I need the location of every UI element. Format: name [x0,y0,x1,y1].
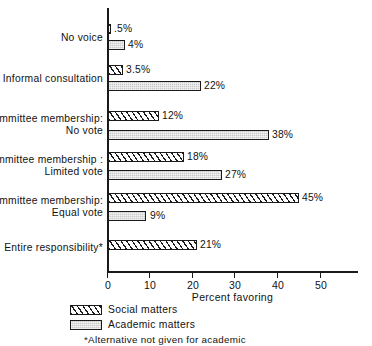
x-tick-1 [149,272,150,278]
x-tick-label-0: 0 [105,279,111,291]
bar-social-committee-limited-vote [108,152,184,162]
x-tick-label-1: 10 [144,279,156,291]
x-tick-3 [234,272,235,278]
bar-value-academic-no-voice: 4% [128,39,143,50]
bar-chart: 0 10 20 30 40 50 Percent favoring No voi… [0,0,372,346]
legend-label-academic-matters: Academic matters [108,319,195,330]
bar-social-informal-consultation [108,65,123,75]
bar-value-social-committee-no-vote: 12% [162,110,183,121]
bar-value-social-entire-responsibility: 21% [200,239,221,250]
x-tick-0 [107,272,108,278]
bar-value-academic-informal-consultation: 22% [204,80,225,91]
bar-academic-committee-limited-vote [108,170,222,180]
x-tick-label-5: 50 [315,279,327,291]
bar-social-committee-no-vote [108,111,159,121]
bar-academic-no-voice [108,40,125,50]
bar-value-social-no-voice: .5% [114,23,132,34]
legend-label-social-matters: Social matters [108,304,177,315]
category-label-entire-responsibility: Entire responsibility* [4,242,107,254]
bar-value-academic-committee-limited-vote: 27% [225,169,246,180]
bar-value-social-committee-limited-vote: 18% [187,151,208,162]
x-tick-label-2: 20 [187,279,199,291]
chart-footnote: *Alternative not given for academic [84,334,246,345]
bar-academic-committee-no-vote [108,130,269,140]
category-label-no-voice: No voice [61,32,107,44]
bar-value-social-committee-equal-vote: 45% [302,192,323,203]
bar-value-academic-committee-equal-vote: 9% [150,210,165,221]
legend-swatch-academic-matters [70,320,102,330]
bar-academic-informal-consultation [108,81,201,91]
bar-social-committee-equal-vote [108,193,299,203]
bar-social-entire-responsibility [108,240,197,250]
x-tick-4 [277,272,278,278]
x-axis-title: Percent favoring [107,291,358,303]
category-label-informal-consultation: Informal consultation [3,73,107,85]
bar-academic-committee-equal-vote [108,211,146,221]
x-tick-label-3: 30 [229,279,241,291]
category-label-committee-limited-vote: Committee membership : Limited vote [0,154,107,177]
category-label-committee-equal-vote: Committee membership: Equal vote [0,195,107,218]
bar-social-no-voice [108,24,111,34]
category-label-committee-no-vote: Committee membership: No vote [0,113,107,136]
bar-value-social-informal-consultation: 3.5% [126,64,150,75]
x-tick-5 [320,272,321,278]
legend-swatch-social-matters [70,305,102,315]
x-tick-label-4: 40 [272,279,284,291]
x-tick-2 [192,272,193,278]
bar-value-academic-committee-no-vote: 38% [272,129,293,140]
